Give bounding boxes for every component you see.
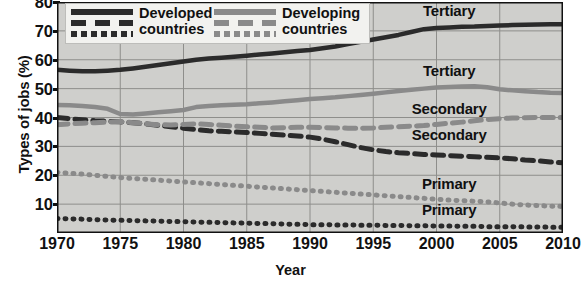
x-tick-1990: 1990 [280, 236, 340, 252]
legend-label-line1: Developing [282, 5, 360, 21]
series-label-secondary-2: Secondary [412, 100, 487, 117]
legend-dotted-swatch-icon [214, 31, 276, 37]
y-tick-20: 20 [11, 167, 53, 184]
y-tick-60: 60 [11, 52, 53, 69]
chart-legend: DevelopedcountriesDevelopingcountries [65, 3, 370, 44]
legend-swatch-group-0 [71, 8, 133, 41]
y-tick-80: 80 [11, 0, 53, 11]
x-axis-tick-labels: 197019751980198519901995200020052010 [0, 236, 581, 260]
legend-label-line1: Developed [139, 5, 212, 21]
x-tick-2000: 2000 [407, 236, 467, 252]
legend-label-0: Developedcountries [139, 5, 212, 37]
x-axis-title: Year [0, 262, 581, 278]
chart-root: Types of jobs (%) 8070605040302010 Terti… [0, 0, 581, 284]
series-label-tertiary-1: Tertiary [423, 62, 475, 79]
x-tick-2005: 2005 [470, 236, 530, 252]
legend-dashed-swatch-icon [214, 20, 276, 26]
legend-solid-swatch-icon [214, 9, 276, 15]
legend-label-line2: countries [139, 21, 212, 37]
x-tick-1985: 1985 [217, 236, 277, 252]
x-tick-1995: 1995 [343, 236, 403, 252]
y-tick-50: 50 [11, 81, 53, 98]
legend-label-line2: countries [282, 21, 360, 37]
series-label-tertiary-0: Tertiary [423, 2, 475, 19]
legend-label-1: Developingcountries [282, 5, 360, 37]
x-tick-2010: 2010 [533, 236, 581, 252]
legend-solid-swatch-icon [71, 9, 133, 15]
legend-dotted-swatch-icon [71, 31, 133, 37]
y-tick-30: 30 [11, 138, 53, 155]
x-tick-1975: 1975 [90, 236, 150, 252]
series-label-secondary-3: Secondary [412, 126, 487, 143]
series-label-primary-5: Primary [422, 201, 476, 218]
x-tick-1980: 1980 [154, 236, 214, 252]
x-tick-1970: 1970 [27, 236, 87, 252]
y-tick-10: 10 [11, 196, 53, 213]
legend-dashed-swatch-icon [71, 20, 133, 26]
y-tick-70: 70 [11, 23, 53, 40]
y-tick-40: 40 [11, 110, 53, 127]
series-label-primary-4: Primary [422, 175, 476, 192]
legend-swatch-group-1 [214, 8, 276, 41]
